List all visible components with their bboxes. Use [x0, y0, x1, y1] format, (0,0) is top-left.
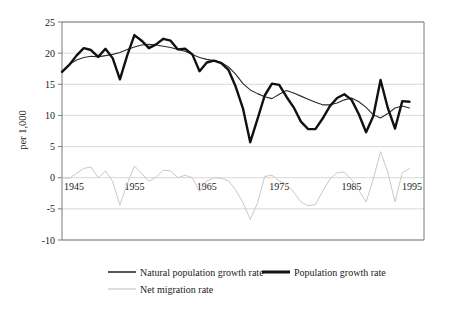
gridlines — [62, 22, 424, 240]
legend-label: Natural population growth rate — [140, 267, 264, 278]
x-tick-label: 1965 — [197, 181, 217, 192]
y-axis-title: per 1,000 — [17, 110, 28, 150]
x-axis-tick-labels: 194519551965197519851995 — [64, 181, 422, 192]
plot-frame — [62, 22, 424, 240]
y-axis-tick-labels: 2520151050-5-10 — [42, 17, 62, 246]
data-series — [62, 35, 410, 219]
series-line-0 — [62, 44, 410, 118]
y-tick-label: 20 — [45, 48, 55, 59]
legend-item: Net migration rate — [108, 284, 214, 295]
series-line-1 — [62, 35, 410, 142]
legend-item: Natural population growth rate — [108, 267, 264, 278]
y-tick-label: 15 — [45, 79, 55, 90]
y-tick-label: -5 — [47, 203, 55, 214]
y-tick-label: 5 — [50, 141, 55, 152]
chart-legend: Natural population growth ratePopulation… — [108, 267, 386, 295]
line-chart: 2520151050-5-10 194519551965197519851995… — [0, 0, 451, 309]
legend-label: Population growth rate — [294, 267, 386, 278]
legend-label: Net migration rate — [140, 284, 214, 295]
x-tick-label: 1995 — [402, 181, 422, 192]
x-tick-label: 1975 — [269, 181, 289, 192]
chart-container: 2520151050-5-10 194519551965197519851995… — [0, 0, 451, 309]
legend-item: Population growth rate — [262, 267, 386, 278]
y-tick-label: 0 — [50, 172, 55, 183]
y-tick-label: 25 — [45, 17, 55, 28]
y-tick-label: -10 — [42, 235, 55, 246]
y-tick-label: 10 — [45, 110, 55, 121]
x-tick-label: 1945 — [64, 181, 84, 192]
axes — [62, 22, 424, 240]
